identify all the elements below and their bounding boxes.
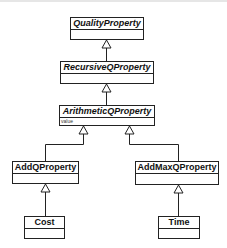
class-name: AddMaxQProperty xyxy=(136,162,218,174)
class-quality-property[interactable]: QualityProperty xyxy=(70,17,144,40)
class-name: ArithmeticQProperty xyxy=(60,106,154,118)
attribute-value: value xyxy=(60,118,154,124)
class-cost[interactable]: Cost xyxy=(24,216,65,239)
generalization-arrowhead-icon xyxy=(102,84,111,92)
class-name: RecursiveQProperty xyxy=(61,62,153,74)
generalization-arrowhead-icon xyxy=(174,185,183,193)
class-arithmetic-q-property[interactable]: ArithmeticQProperty value xyxy=(59,105,155,126)
class-add-max-q-property[interactable]: AddMaxQProperty xyxy=(135,161,219,185)
class-name: AddQProperty xyxy=(13,162,78,174)
class-add-q-property[interactable]: AddQProperty xyxy=(12,161,79,184)
generalization-arrowhead-icon xyxy=(102,40,111,48)
edge-addq-to-arithmetic xyxy=(46,134,84,161)
class-time[interactable]: Time xyxy=(158,216,200,239)
generalization-arrowhead-icon xyxy=(41,184,50,192)
class-name: QualityProperty xyxy=(71,18,143,30)
class-name: Time xyxy=(159,217,199,229)
generalization-arrowhead-icon xyxy=(79,126,88,134)
generalization-arrowhead-icon xyxy=(125,126,134,134)
class-recursive-q-property[interactable]: RecursiveQProperty xyxy=(60,61,154,84)
class-name: Cost xyxy=(25,217,64,229)
edge-addmax-to-arithmetic xyxy=(130,134,179,161)
